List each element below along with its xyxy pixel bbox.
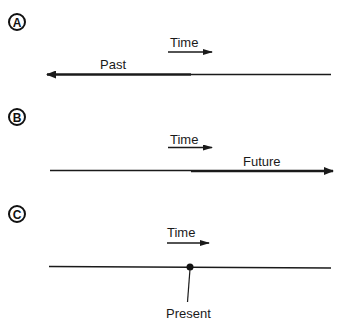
- time-diagram: A Time Past B Time Future C Time Present: [0, 0, 339, 332]
- badge-a-label: A: [13, 16, 22, 30]
- badge-a-icon: A: [9, 14, 25, 30]
- panel-c: C Time Present: [9, 206, 331, 321]
- time-label-b: Time: [170, 132, 198, 147]
- present-label: Present: [166, 306, 211, 321]
- time-label-a: Time: [170, 35, 198, 50]
- panel-a: A Time Past: [9, 14, 331, 75]
- present-pointer-line: [188, 269, 191, 302]
- future-label: Future: [243, 154, 281, 169]
- past-label: Past: [100, 57, 126, 72]
- panel-b: B Time Future: [9, 109, 333, 171]
- badge-b-label: B: [13, 111, 22, 125]
- badge-c-label: C: [13, 208, 22, 222]
- badge-c-icon: C: [9, 206, 25, 222]
- time-label-c: Time: [167, 225, 195, 240]
- badge-b-icon: B: [9, 109, 25, 125]
